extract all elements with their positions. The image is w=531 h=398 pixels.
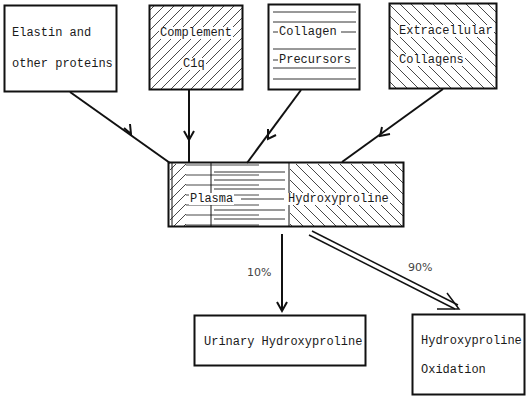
urinary-percent: 10%: [247, 267, 271, 278]
oxidation-double-arrow: [309, 231, 459, 309]
arrow-extracellular: [342, 89, 443, 162]
extracellular-label-line2: Collagens: [398, 54, 465, 66]
input-arrows: [70, 89, 443, 163]
collagen-precursors-label-line2: Precursors: [278, 54, 352, 66]
oxidation-percent: 90%: [408, 262, 432, 273]
plasma-label: Plasma: [189, 193, 234, 205]
oxidation-label-line1: Hydroxyproline: [421, 335, 522, 347]
urinary-arrow: [277, 234, 287, 311]
hydroxyproline-label: Hydroxyproline: [287, 193, 390, 205]
oxidation-label-line2: Oxidation: [421, 364, 486, 376]
extracellular-collagens-box: [390, 4, 497, 89]
arrow-elastin: [70, 92, 170, 163]
collagen-precursors-label-line1: Collagen: [278, 26, 338, 38]
complement-label-line1: Complement: [159, 27, 233, 39]
hydroxyproline-oxidation-box: [413, 315, 525, 395]
complement-label-line2: C1q: [182, 58, 206, 70]
extracellular-label-line1: Extracellular: [398, 25, 494, 37]
complement-box: [150, 6, 243, 90]
collagen-precursors-box: [269, 5, 360, 90]
arrow-collagen-precursors: [247, 90, 301, 163]
urinary-label: Urinary Hydroxyproline: [204, 336, 362, 348]
elastin-label-line2: other proteins: [12, 58, 113, 70]
elastin-label-line1: Elastin and: [12, 27, 91, 39]
elastin-box: [5, 6, 117, 92]
